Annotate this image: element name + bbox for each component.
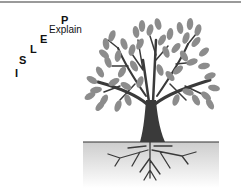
- leaves-icon: [83, 17, 220, 112]
- soil-area: [83, 142, 219, 188]
- tree-illustration: [0, 0, 241, 188]
- trunk-icon: [140, 100, 165, 142]
